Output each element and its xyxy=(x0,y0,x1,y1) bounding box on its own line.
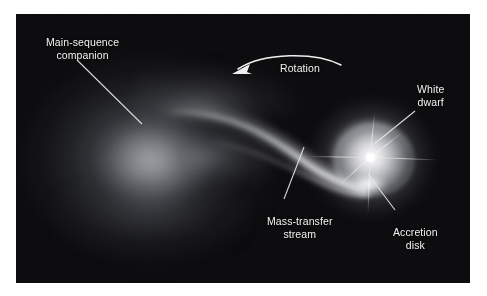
leader-line-stream xyxy=(284,147,304,199)
figure-canvas: Main-sequence companion Rotation White d… xyxy=(0,0,487,296)
label-white-dwarf: White dwarf xyxy=(417,83,444,109)
label-main-sequence-companion: Main-sequence companion xyxy=(46,36,119,62)
leader-line-white-dwarf xyxy=(373,111,415,145)
astronomical-scene: Main-sequence companion Rotation White d… xyxy=(16,14,470,283)
leader-line-accretion-disk xyxy=(368,174,395,210)
label-mass-transfer-stream: Mass-transfer stream xyxy=(267,215,332,241)
leader-line-companion xyxy=(77,60,142,124)
rotation-arrowhead-icon xyxy=(232,64,252,74)
label-accretion-disk: Accretion disk xyxy=(393,226,438,252)
label-rotation: Rotation xyxy=(280,62,320,75)
